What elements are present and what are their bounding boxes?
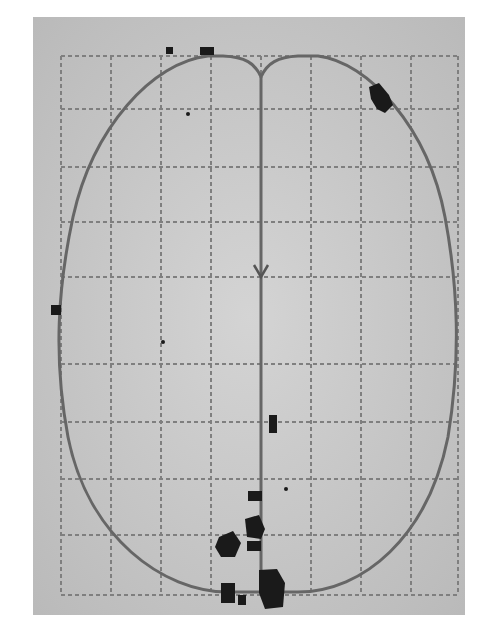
brain-map-diagram [33,17,465,615]
grid-brain-photo [33,17,465,615]
